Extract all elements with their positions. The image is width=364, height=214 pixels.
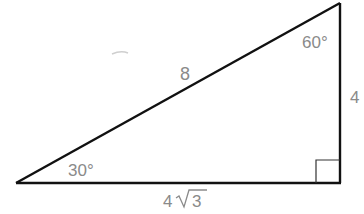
triangle-diagram: 60° 8 4 30° 4 3 xyxy=(0,0,364,214)
hypotenuse-line xyxy=(16,3,340,183)
horizontal-leg-radical: 3 xyxy=(192,192,201,211)
vertical-leg-label: 4 xyxy=(350,88,359,107)
stray-mark xyxy=(112,52,128,54)
right-angle-marker xyxy=(316,160,340,183)
horizontal-leg-label: 4 3 xyxy=(163,190,207,211)
angle-top-label: 60° xyxy=(302,33,328,52)
hypotenuse-label: 8 xyxy=(180,64,190,84)
angle-bottom-left-label: 30° xyxy=(68,161,94,180)
horizontal-leg-coef: 4 xyxy=(163,192,172,211)
